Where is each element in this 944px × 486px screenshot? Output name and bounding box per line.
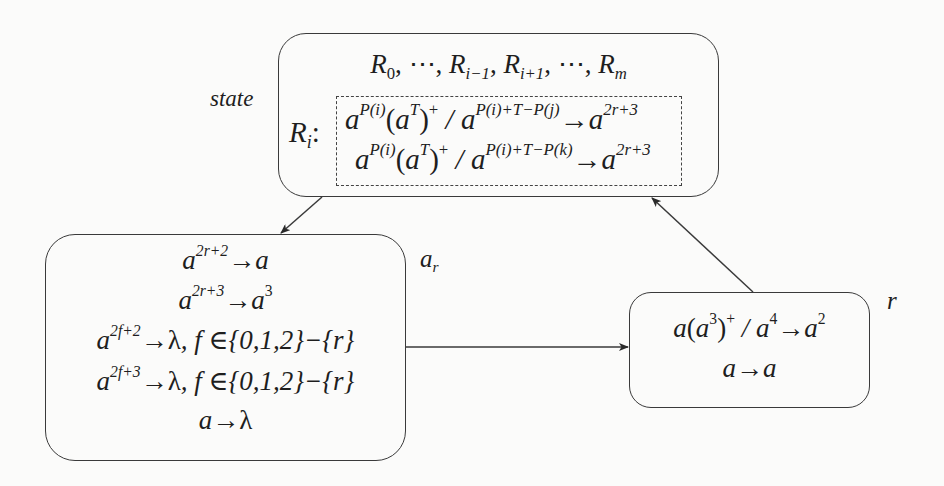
ri-label: Ri: [289, 116, 320, 149]
state-label: state [210, 86, 253, 112]
left-rule-2: a2r+3→a3 [46, 285, 405, 316]
left-rule-4: a2f+3→λ, f ∈{0,1,2}−{r} [46, 365, 405, 397]
rules-box-right: a(a3)+ / a4→a2 a→a [629, 292, 870, 408]
ri-rule-1: aP(i)(aT)+ / aP(i)+T−P(j)→a2r+3 [337, 103, 689, 136]
edge-right-to-state [652, 198, 753, 292]
left-rule-1: a2r+2→a [46, 245, 405, 276]
ri-rule-2: aP(i)(aT)+ / aP(i)+T−P(k)→a2r+3 [337, 143, 699, 176]
edge-label-r: r [887, 287, 897, 315]
left-rule-5: a→λ [46, 405, 405, 436]
rules-box-left: a2r+2→a a2r+3→a3 a2f+2→λ, f ∈{0,1,2}−{r}… [45, 234, 406, 461]
right-rule-2: a→a [630, 353, 869, 384]
right-rule-1: a(a3)+ / a4→a2 [630, 313, 869, 344]
edge-state-to-left [281, 197, 322, 233]
state-header: R0, ⋯, Ri−1, Ri+1, ⋯, Rm [279, 48, 718, 80]
edge-label-ar: ar [420, 245, 439, 273]
left-rule-3: a2f+2→λ, f ∈{0,1,2}−{r} [46, 324, 405, 356]
ri-rules-region: aP(i)(aT)+ / aP(i)+T−P(j)→a2r+3 aP(i)(aT… [336, 96, 682, 186]
